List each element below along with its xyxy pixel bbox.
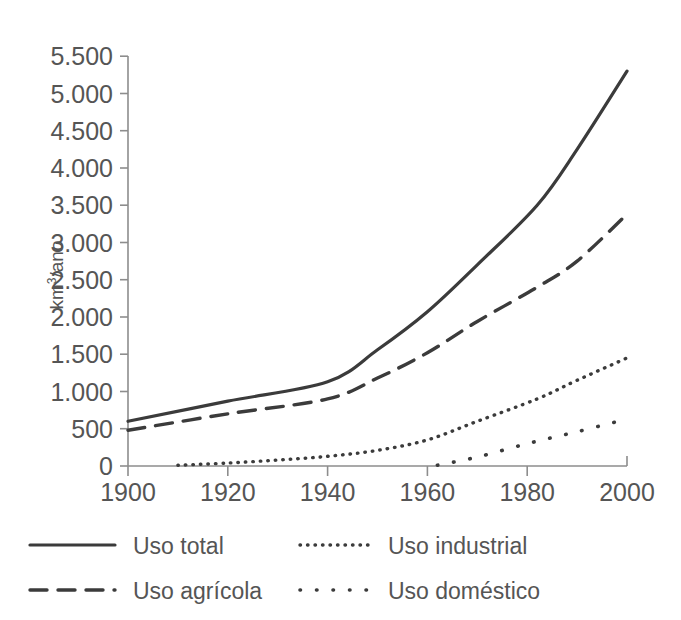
series-line-uso-total — [128, 71, 627, 421]
legend-label: Uso agrícola — [133, 578, 262, 604]
x-tick-label: 1960 — [400, 478, 456, 506]
y-axis-ticks — [120, 56, 128, 466]
legend-label: Uso total — [133, 533, 224, 559]
x-tick-label: 2000 — [599, 478, 655, 506]
y-tick-label: 3.500 — [50, 191, 113, 219]
legend-item-uso-agricola: Uso agrícola — [30, 578, 262, 604]
y-axis-title-base: km — [46, 284, 67, 309]
chart-legend: Uso total Uso industrial Uso agrícola Us… — [30, 533, 540, 604]
chart-figure: 0 500 1.000 1.500 2.000 2.500 3.000 3.50… — [0, 0, 681, 620]
legend-label: Uso doméstico — [388, 578, 540, 604]
y-tick-label: 500 — [71, 415, 113, 443]
svg-text:km3/ano: km3/ano — [45, 241, 67, 310]
y-tick-label: 4.000 — [50, 154, 113, 182]
legend-item-uso-total: Uso total — [30, 533, 224, 559]
x-tick-label: 1980 — [499, 478, 555, 506]
x-tick-label: 1900 — [100, 478, 156, 506]
x-axis-tick-labels: 1900 1920 1940 1960 1980 2000 — [100, 478, 655, 506]
y-tick-label: 1.500 — [50, 340, 113, 368]
y-tick-label: 5.000 — [50, 80, 113, 108]
y-tick-label: 5.500 — [50, 42, 113, 70]
series-group — [128, 71, 627, 465]
x-tick-label: 1940 — [300, 478, 356, 506]
legend-label: Uso industrial — [388, 533, 527, 559]
y-tick-label: 1.000 — [50, 378, 113, 406]
y-axis-title-rest: /ano — [46, 241, 67, 278]
legend-item-uso-domestico: Uso doméstico — [300, 578, 540, 604]
y-tick-label: 0 — [99, 452, 113, 480]
x-tick-label: 1920 — [200, 478, 256, 506]
legend-item-uso-industrial: Uso industrial — [300, 533, 527, 559]
line-chart: 0 500 1.000 1.500 2.000 2.500 3.000 3.50… — [0, 0, 681, 620]
y-axis-title: km3/ano — [45, 241, 67, 310]
y-tick-label: 4.500 — [50, 117, 113, 145]
series-line-uso-agricola — [128, 214, 627, 430]
